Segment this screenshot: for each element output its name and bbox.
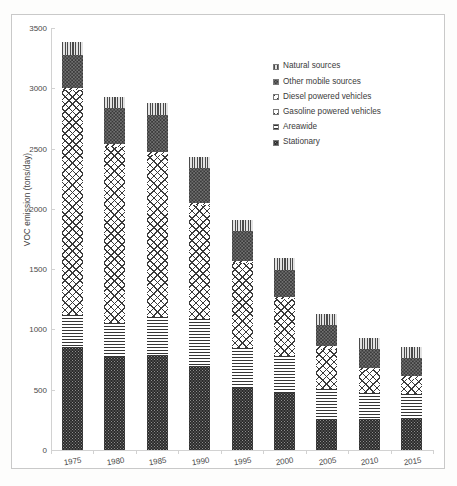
x-axis-tick bbox=[306, 450, 307, 454]
chart-figure: VOC emission (tons/day) 0500100015002000… bbox=[0, 0, 457, 486]
bar-segment[interactable] bbox=[274, 393, 295, 450]
bar-segment[interactable] bbox=[274, 356, 295, 393]
bar-segment[interactable] bbox=[62, 90, 83, 315]
x-axis-tick bbox=[221, 450, 222, 454]
bar-segment[interactable] bbox=[62, 347, 83, 450]
y-axis-tick bbox=[51, 209, 55, 210]
bar-segment[interactable] bbox=[104, 323, 125, 357]
bar-segment[interactable] bbox=[401, 347, 422, 358]
bar-segment[interactable] bbox=[189, 205, 210, 318]
bar-segment[interactable] bbox=[147, 355, 168, 450]
bar-segment[interactable] bbox=[62, 88, 83, 90]
bar-segment[interactable] bbox=[147, 103, 168, 115]
legend-item[interactable]: Other mobile sources bbox=[273, 74, 423, 89]
bar-segment[interactable] bbox=[104, 147, 125, 323]
bar-segment[interactable] bbox=[359, 370, 380, 393]
bar-segment[interactable] bbox=[232, 348, 253, 388]
bar-stack[interactable] bbox=[189, 157, 210, 450]
x-axis-tick bbox=[136, 450, 137, 454]
bar-segment[interactable] bbox=[104, 357, 125, 450]
bar-stack[interactable] bbox=[316, 314, 337, 450]
x-axis-tick bbox=[433, 450, 434, 454]
legend-item-label: Stationary bbox=[283, 138, 320, 146]
x-axis-tick bbox=[178, 450, 179, 454]
bar-segment[interactable] bbox=[62, 42, 83, 55]
y-axis-tick bbox=[51, 269, 55, 270]
bar-segment[interactable] bbox=[104, 97, 125, 107]
legend-item[interactable]: Gasoline powered vehicles bbox=[273, 105, 423, 120]
bar-segment[interactable] bbox=[147, 152, 168, 154]
y-axis-tick bbox=[51, 329, 55, 330]
y-axis-tick bbox=[51, 390, 55, 391]
x-axis-tick bbox=[51, 450, 52, 454]
dotted-dark-coarse-swatch bbox=[273, 79, 279, 85]
bar-segment[interactable] bbox=[147, 155, 168, 318]
bar-stack[interactable] bbox=[274, 258, 295, 450]
cross-diagonal-hatch-swatch bbox=[273, 109, 279, 115]
bar-segment[interactable] bbox=[62, 55, 83, 88]
y-axis-tick bbox=[51, 28, 55, 29]
legend-item-label: Other mobile sources bbox=[283, 78, 361, 86]
legend-item-label: Areawide bbox=[283, 123, 317, 131]
diagonal-hatch-swatch bbox=[273, 94, 279, 100]
x-axis-tick bbox=[93, 450, 94, 454]
x-axis-tick bbox=[391, 450, 392, 454]
bar-segment[interactable] bbox=[316, 346, 337, 349]
bar-stack[interactable] bbox=[147, 103, 168, 450]
bar-stack[interactable] bbox=[104, 97, 125, 450]
bar-segment[interactable] bbox=[232, 388, 253, 450]
bar-segment[interactable] bbox=[232, 263, 253, 349]
legend-item[interactable]: Diesel powered vehicles bbox=[273, 89, 423, 104]
bar-segment[interactable] bbox=[274, 299, 295, 356]
bar-segment[interactable] bbox=[401, 394, 422, 418]
legend-item-label: Gasoline powered vehicles bbox=[283, 108, 381, 116]
bar-segment[interactable] bbox=[147, 317, 168, 354]
legend-item[interactable]: Areawide bbox=[273, 120, 423, 135]
bar-segment[interactable] bbox=[359, 393, 380, 419]
bar-segment[interactable] bbox=[232, 261, 253, 263]
bar-segment[interactable] bbox=[189, 157, 210, 168]
bar-segment[interactable] bbox=[232, 220, 253, 230]
bar-segment[interactable] bbox=[359, 338, 380, 349]
horizontal-lines-swatch bbox=[273, 124, 279, 130]
bar-segment[interactable] bbox=[189, 319, 210, 366]
x-axis-tick bbox=[348, 450, 349, 454]
bar-segment[interactable] bbox=[62, 315, 83, 347]
bar-segment[interactable] bbox=[274, 258, 295, 269]
legend-item-label: Natural sources bbox=[283, 62, 340, 70]
chart-legend: Natural sourcesOther mobile sourcesDiese… bbox=[273, 59, 423, 150]
bar-segment[interactable] bbox=[401, 379, 422, 393]
legend-item[interactable]: Stationary bbox=[273, 135, 423, 150]
bar-segment[interactable] bbox=[147, 115, 168, 152]
bar-stack[interactable] bbox=[232, 220, 253, 450]
bar-segment[interactable] bbox=[316, 349, 337, 389]
bar-stack[interactable] bbox=[359, 338, 380, 450]
x-axis-tick bbox=[263, 450, 264, 454]
bar-segment[interactable] bbox=[359, 349, 380, 368]
bar-segment[interactable] bbox=[401, 358, 422, 376]
bar-segment[interactable] bbox=[104, 108, 125, 144]
bar-segment[interactable] bbox=[316, 314, 337, 325]
bar-segment[interactable] bbox=[274, 297, 295, 299]
legend-item-label: Diesel powered vehicles bbox=[283, 93, 371, 101]
bar-segment[interactable] bbox=[189, 168, 210, 202]
bar-segment[interactable] bbox=[104, 144, 125, 147]
bar-segment[interactable] bbox=[401, 418, 422, 450]
bar-segment[interactable] bbox=[274, 270, 295, 297]
bar-segment[interactable] bbox=[232, 231, 253, 261]
bar-segment[interactable] bbox=[189, 203, 210, 205]
dotted-dark-swatch bbox=[273, 140, 279, 146]
vertical-lines-swatch bbox=[273, 64, 279, 70]
bar-stack[interactable] bbox=[62, 42, 83, 450]
bar-segment[interactable] bbox=[316, 389, 337, 419]
y-axis-tick bbox=[51, 149, 55, 150]
y-axis-tick bbox=[51, 88, 55, 89]
bar-segment[interactable] bbox=[359, 419, 380, 450]
bar-stack[interactable] bbox=[401, 347, 422, 450]
bar-segment[interactable] bbox=[401, 376, 422, 379]
bar-segment[interactable] bbox=[189, 366, 210, 450]
bar-segment[interactable] bbox=[316, 419, 337, 450]
bar-segment[interactable] bbox=[359, 368, 380, 370]
legend-item[interactable]: Natural sources bbox=[273, 59, 423, 74]
bar-segment[interactable] bbox=[316, 325, 337, 347]
